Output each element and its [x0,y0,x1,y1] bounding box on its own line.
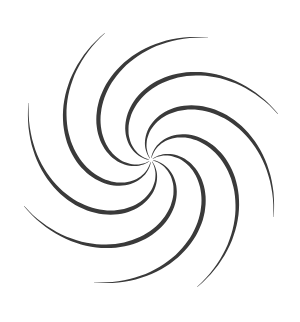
swirl-arms [24,33,278,287]
swirl-arm [145,105,274,217]
swirl-arm [96,37,208,166]
swirl-graphic [0,0,300,322]
swirl-arm [94,154,206,283]
swirl-arm [28,103,157,215]
